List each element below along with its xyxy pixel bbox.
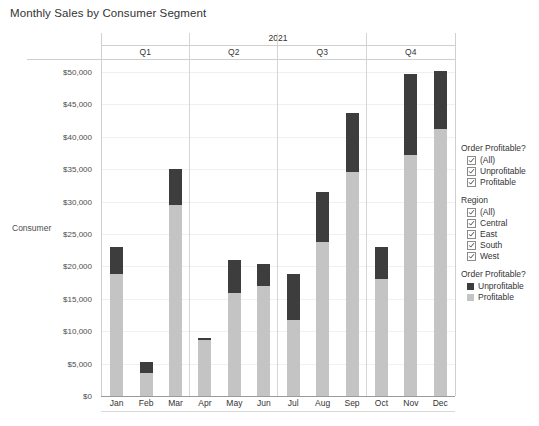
x-axis-label-feb: Feb: [131, 398, 160, 408]
bar-sep[interactable]: [346, 59, 359, 396]
bar-segment-profitable[interactable]: [140, 373, 153, 396]
filter-item-label: East: [480, 229, 497, 240]
checkbox-checked-icon[interactable]: [467, 156, 476, 165]
filter-item-label: South: [480, 240, 502, 251]
bar-jul[interactable]: [287, 59, 300, 396]
y-axis-tick-label: $50,000: [63, 67, 92, 76]
x-axis-label-mar: Mar: [161, 398, 190, 408]
quarter-header-q3: Q3: [278, 46, 367, 59]
y-axis-tick-label: $0: [83, 392, 92, 401]
bar-segment-profitable[interactable]: [257, 286, 270, 396]
bar-segment-unprofitable[interactable]: [287, 274, 300, 319]
bar-segment-unprofitable[interactable]: [110, 247, 123, 274]
bar-aug[interactable]: [316, 59, 329, 396]
y-axis-tick-label: $10,000: [63, 327, 92, 336]
filter-item-label: (All): [480, 207, 495, 218]
y-axis-tick-label: $30,000: [63, 197, 92, 206]
x-axis-label-apr: Apr: [190, 398, 219, 408]
bar-may[interactable]: [228, 59, 241, 396]
checkbox-checked-icon[interactable]: [467, 241, 476, 250]
checkbox-checked-icon[interactable]: [467, 167, 476, 176]
bar-segment-unprofitable[interactable]: [346, 113, 359, 173]
page-title: Monthly Sales by Consumer Segment: [10, 7, 206, 19]
quarter-header-q2: Q2: [190, 46, 279, 59]
bar-oct[interactable]: [375, 59, 388, 396]
x-axis: JanFebMarAprMayJunJulAugSepOctNovDec: [102, 398, 455, 412]
y-axis-tick-label: $20,000: [63, 262, 92, 271]
x-axis-label-nov: Nov: [396, 398, 425, 408]
checkbox-checked-icon[interactable]: [467, 208, 476, 217]
filter-item[interactable]: Unprofitable: [461, 166, 537, 177]
filter-item[interactable]: (All): [461, 155, 537, 166]
color-legend-item[interactable]: Profitable: [461, 292, 537, 303]
color-swatch: [467, 294, 474, 301]
filter-item[interactable]: Central: [461, 218, 537, 229]
filter-item-label: Profitable: [480, 177, 516, 188]
color-swatch: [467, 283, 474, 290]
filter-item[interactable]: Profitable: [461, 177, 537, 188]
filter-item-label: (All): [480, 155, 495, 166]
bar-segment-unprofitable[interactable]: [434, 71, 447, 129]
x-axis-label-rule: [101, 411, 455, 412]
filter-item[interactable]: (All): [461, 207, 537, 218]
bar-segment-profitable[interactable]: [434, 129, 447, 396]
checkbox-checked-icon[interactable]: [467, 178, 476, 187]
bar-segment-unprofitable[interactable]: [140, 362, 153, 373]
bar-segment-unprofitable[interactable]: [228, 260, 241, 293]
x-axis-line: [101, 396, 455, 397]
bar-jan[interactable]: [110, 59, 123, 396]
bar-segment-profitable[interactable]: [375, 279, 388, 396]
y-axis: $0$5,000$10,000$15,000$20,000$25,000$30,…: [30, 60, 92, 400]
x-axis-label-aug: Aug: [308, 398, 337, 408]
filter-item[interactable]: South: [461, 240, 537, 251]
x-axis-label-jun: Jun: [249, 398, 278, 408]
filter-item[interactable]: West: [461, 251, 537, 262]
x-axis-label-may: May: [220, 398, 249, 408]
bar-segment-unprofitable[interactable]: [257, 264, 270, 287]
pane-separator: [455, 33, 456, 396]
bar-nov[interactable]: [404, 59, 417, 396]
y-axis-tick-label: $25,000: [63, 229, 92, 238]
bar-dec[interactable]: [434, 59, 447, 396]
checkbox-checked-icon[interactable]: [467, 230, 476, 239]
quarter-header-band: Q1 Q2 Q3 Q4: [101, 46, 455, 59]
filter-card-order-profitable: Order Profitable?(All)UnprofitableProfit…: [461, 143, 537, 188]
filter-item-label: Unprofitable: [480, 166, 526, 177]
year-label: 2021: [101, 33, 455, 43]
bar-jun[interactable]: [257, 59, 270, 396]
filter-heading: Order Profitable?: [461, 143, 537, 153]
filter-item[interactable]: East: [461, 229, 537, 240]
bar-segment-profitable[interactable]: [169, 205, 182, 396]
color-legend-item[interactable]: Unprofitable: [461, 281, 537, 292]
bar-segment-profitable[interactable]: [110, 274, 123, 396]
bar-mar[interactable]: [169, 59, 182, 396]
checkbox-checked-icon[interactable]: [467, 252, 476, 261]
bar-apr[interactable]: [198, 59, 211, 396]
bar-segment-profitable[interactable]: [404, 155, 417, 396]
bar-segment-profitable[interactable]: [287, 320, 300, 396]
x-axis-label-jan: Jan: [102, 398, 131, 408]
bar-segment-profitable[interactable]: [316, 242, 329, 396]
chart-container: Monthly Sales by Consumer Segment 2021 Q…: [0, 0, 539, 426]
color-legend-label: Unprofitable: [478, 281, 524, 292]
bar-segment-unprofitable[interactable]: [375, 247, 388, 279]
filter-card-region: Region(All)CentralEastSouthWest: [461, 195, 537, 262]
quarter-header-q1: Q1: [101, 46, 190, 59]
y-axis-tick-label: $40,000: [63, 132, 92, 141]
bar-segment-unprofitable[interactable]: [404, 74, 417, 155]
filter-heading: Region: [461, 195, 537, 205]
bar-segment-profitable[interactable]: [346, 172, 359, 396]
bar-segment-unprofitable[interactable]: [169, 169, 182, 205]
y-axis-tick-label: $45,000: [63, 100, 92, 109]
bar-feb[interactable]: [140, 59, 153, 396]
x-axis-label-dec: Dec: [426, 398, 455, 408]
bar-segment-profitable[interactable]: [198, 340, 211, 396]
bar-segment-unprofitable[interactable]: [316, 192, 329, 242]
checkbox-checked-icon[interactable]: [467, 219, 476, 228]
plot-area: [102, 59, 455, 396]
y-axis-tick-label: $5,000: [68, 359, 92, 368]
x-axis-label-oct: Oct: [367, 398, 396, 408]
quarter-header-q4: Q4: [367, 46, 456, 59]
bar-segment-profitable[interactable]: [228, 293, 241, 396]
bar-segment-unprofitable[interactable]: [198, 338, 211, 340]
